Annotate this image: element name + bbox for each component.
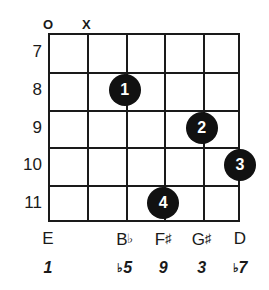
finger-dot-2: 2	[186, 112, 218, 144]
interval-accidental-icon: ♭	[233, 261, 239, 275]
chord-diagram: OX 7891011 1234 EB♭F♯G♯D 1♭593♭7	[0, 0, 269, 290]
string-line-3	[126, 35, 128, 220]
interval-accidental-icon: ♭	[117, 261, 123, 275]
accidental-icon: ♯	[205, 231, 212, 246]
fret-line-2	[50, 110, 238, 112]
fret-number-11: 11	[2, 194, 42, 212]
fret-line-1	[50, 72, 238, 74]
fret-number-10: 10	[2, 156, 42, 174]
string-line-2	[87, 35, 89, 220]
interval-string-6: ♭7	[218, 259, 262, 277]
interval-string-5: 3	[180, 259, 224, 277]
note-name-string-5: G♯	[180, 229, 224, 249]
note-name-string-1: E	[26, 229, 70, 248]
finger-dot-3: 3	[224, 149, 256, 181]
finger-dot-1: 1	[109, 74, 141, 106]
interval-string-1: 1	[26, 259, 70, 277]
note-name-string-6: D	[218, 229, 262, 248]
fret-number-7: 7	[2, 43, 42, 61]
fret-line-3	[50, 147, 238, 149]
muted-string-marker-2: X	[77, 18, 95, 32]
fret-number-9: 9	[2, 119, 42, 137]
interval-string-3: ♭5	[103, 259, 147, 277]
accidental-icon: ♯	[165, 231, 172, 246]
interval-string-4: 9	[141, 259, 185, 277]
note-name-string-3: B♭	[103, 229, 147, 249]
fret-line-4	[50, 185, 238, 187]
fret-number-8: 8	[2, 81, 42, 99]
note-name-string-4: F♯	[141, 229, 185, 249]
accidental-icon: ♭	[127, 231, 133, 246]
